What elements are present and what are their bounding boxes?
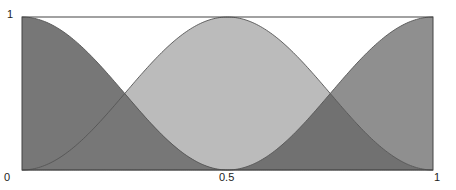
y-tick-0: 0	[4, 171, 10, 183]
chart-plot-area	[0, 0, 456, 190]
x-tick-1: 1	[434, 171, 440, 183]
y-tick-1: 1	[7, 8, 13, 20]
x-tick-0.5: 0.5	[219, 171, 234, 183]
